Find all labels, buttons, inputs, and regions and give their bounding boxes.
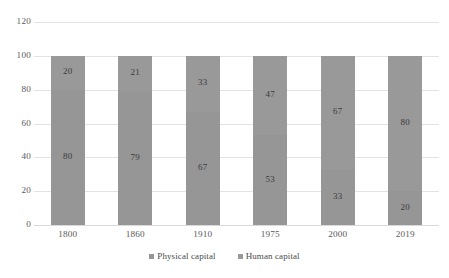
stacked-bar-chart: 020406080100120 208021793367475367338020… bbox=[0, 0, 449, 278]
x-axis-tick-label-1910: 1910 bbox=[169, 228, 237, 240]
bar-stack: 6733 bbox=[321, 56, 355, 225]
y-axis-tick-label: 80 bbox=[3, 85, 31, 94]
bar-stack: 2179 bbox=[118, 56, 152, 225]
legend-label: Physical capital bbox=[157, 252, 215, 261]
bar-value-label: 20 bbox=[401, 203, 410, 212]
bar-group-1975[interactable]: 4753 bbox=[253, 22, 287, 225]
y-axis-tick-label: 60 bbox=[3, 119, 31, 128]
bar-value-label: 67 bbox=[198, 163, 207, 172]
y-axis-tick-label: 120 bbox=[3, 17, 31, 26]
bar-segment-human[interactable]: 21 bbox=[118, 56, 152, 92]
legend-label: Human capital bbox=[246, 252, 300, 261]
bar-group-1800[interactable]: 2080 bbox=[51, 22, 85, 225]
bar-value-label: 47 bbox=[266, 90, 275, 99]
bar-value-label: 21 bbox=[131, 68, 140, 77]
x-axis-tick-label-1860: 1860 bbox=[102, 228, 170, 240]
bar-segment-human[interactable]: 80 bbox=[388, 56, 422, 191]
bar-stack: 4753 bbox=[253, 56, 287, 225]
y-axis-tick-label: 40 bbox=[3, 152, 31, 161]
bar-value-label: 80 bbox=[63, 152, 72, 161]
bar-segment-human[interactable]: 67 bbox=[321, 56, 355, 169]
y-axis-tick-label: 100 bbox=[3, 51, 31, 60]
bar-stack: 3367 bbox=[186, 56, 220, 225]
bar-stack: 8020 bbox=[388, 56, 422, 225]
bar-segment-physical[interactable]: 67 bbox=[186, 112, 220, 225]
bar-value-label: 79 bbox=[131, 153, 140, 162]
bar-segment-human[interactable]: 33 bbox=[186, 56, 220, 112]
legend-swatch-icon bbox=[149, 254, 154, 259]
bar-value-label: 67 bbox=[333, 107, 342, 116]
bar-segment-physical[interactable]: 53 bbox=[253, 135, 287, 225]
x-axis-tick-label-1800: 1800 bbox=[34, 228, 102, 240]
bar-group-2000[interactable]: 6733 bbox=[321, 22, 355, 225]
bar-value-label: 80 bbox=[401, 118, 410, 127]
x-axis-tick-label-2019: 2019 bbox=[372, 228, 440, 240]
chart-legend: Physical capitalHuman capital bbox=[0, 252, 449, 261]
bar-value-label: 33 bbox=[198, 78, 207, 87]
bar-group-2019[interactable]: 8020 bbox=[388, 22, 422, 225]
legend-item-physical-capital[interactable]: Physical capital bbox=[149, 252, 215, 261]
x-axis-tick-label-1975: 1975 bbox=[237, 228, 305, 240]
bars-layer: 208021793367475367338020 bbox=[34, 22, 439, 225]
bar-value-label: 33 bbox=[333, 192, 342, 201]
bar-group-1910[interactable]: 3367 bbox=[186, 22, 220, 225]
bar-segment-human[interactable]: 47 bbox=[253, 56, 287, 136]
y-axis-tick-label: 0 bbox=[3, 220, 31, 229]
gridline bbox=[34, 225, 439, 226]
legend-swatch-icon bbox=[238, 254, 243, 259]
bar-segment-physical[interactable]: 20 bbox=[388, 191, 422, 225]
bar-segment-human[interactable]: 20 bbox=[51, 56, 85, 90]
x-axis: 180018601910197520002019 bbox=[34, 228, 439, 244]
bar-value-label: 20 bbox=[63, 67, 72, 76]
x-axis-tick-label-2000: 2000 bbox=[304, 228, 372, 240]
y-axis-tick-label: 20 bbox=[3, 186, 31, 195]
bar-segment-physical[interactable]: 79 bbox=[118, 91, 152, 225]
bar-value-label: 53 bbox=[266, 175, 275, 184]
y-axis: 020406080100120 bbox=[0, 22, 31, 225]
legend-item-human-capital[interactable]: Human capital bbox=[238, 252, 300, 261]
bar-segment-physical[interactable]: 80 bbox=[51, 90, 85, 225]
bar-segment-physical[interactable]: 33 bbox=[321, 169, 355, 225]
bar-stack: 2080 bbox=[51, 56, 85, 225]
bar-group-1860[interactable]: 2179 bbox=[118, 22, 152, 225]
